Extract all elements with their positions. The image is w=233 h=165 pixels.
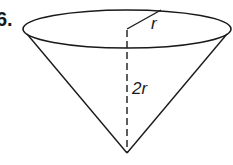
- radius-label: r: [151, 14, 158, 33]
- cone-left-side: [27, 34, 127, 153]
- cone-diagram: r 2r: [0, 0, 233, 165]
- cone-figure: 6. r 2r: [0, 0, 233, 165]
- problem-number: 6.: [0, 9, 13, 29]
- height-label: 2r: [131, 79, 148, 98]
